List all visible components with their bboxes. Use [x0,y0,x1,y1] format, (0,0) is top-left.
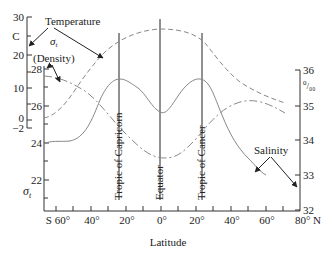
equator-label: Equator [153,165,165,200]
salinity-tick-33: 33 [303,169,315,181]
x-axis: S 60° 40° 20° 0° 20° 40° 60° 80° N Latit… [44,206,321,248]
x-tick-s60: S 60° [46,214,70,226]
salinity-label: Salinity [254,144,289,156]
x-tick-n20: 20° [189,214,204,226]
salinity-axis: 36 35 34 33 32 0/₀₀ [295,64,315,216]
chart-canvas: 30 20 10 0 −2 C 28 26 24 22 σt [0,0,333,255]
salinity-tick-35: 35 [303,100,315,112]
density-axis-symbol: σt [23,184,32,200]
density-symbol: σt [50,35,58,49]
salinity-curve [44,79,266,175]
density-tick-28: 28 [31,63,43,75]
temp-tick-10: 10 [13,82,25,94]
temp-tick-20: 20 [13,49,25,61]
temperature-label: Temperature [45,15,101,27]
salinity-annotation: Salinity [254,144,297,187]
x-axis-label: Latitude [150,236,187,248]
salinity-tick-32: 32 [303,204,314,216]
temp-tick-30: 30 [13,11,25,23]
x-tick-n60: 60° [259,214,274,226]
temp-unit: C [12,30,19,42]
density-tick-26: 26 [31,100,43,112]
temp-tick-neg2: −2 [12,122,24,134]
x-tick-s40: 40° [84,214,99,226]
tropic-capricorn-label: Tropic of Capricorn [112,112,124,200]
salinity-unit: 0/₀₀ [303,79,315,91]
temperature-axis: 30 20 10 0 −2 C [12,11,32,134]
salinity-tick-36: 36 [303,64,315,76]
x-tick-n40: 40° [224,214,239,226]
density-tick-24: 24 [31,137,43,149]
salinity-tick-34: 34 [303,134,315,146]
density-tick-22: 22 [31,174,42,186]
temperature-curve [44,29,285,118]
x-tick-s20: 20° [119,214,134,226]
density-label: (Density) [33,52,75,65]
x-tick-0: 0° [157,214,167,226]
density-curve [44,76,285,158]
tropic-cancer-label: Tropic of Cancer [195,125,207,200]
